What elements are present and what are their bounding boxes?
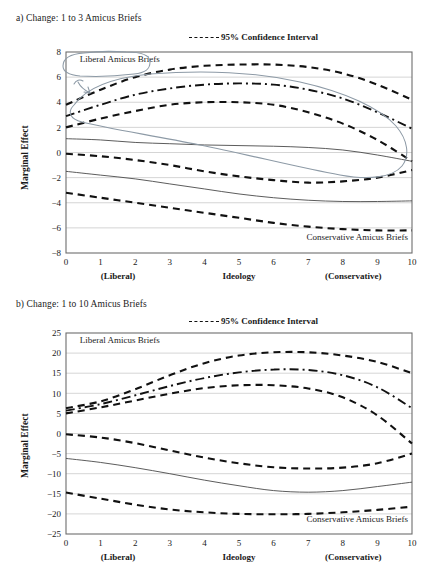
svg-text:10: 10: [408, 257, 418, 267]
svg-text:2: 2: [133, 257, 138, 267]
svg-text:−15: −15: [47, 489, 62, 499]
svg-text:−25: −25: [47, 529, 62, 539]
svg-text:7: 7: [306, 538, 311, 548]
svg-text:5: 5: [57, 409, 62, 419]
svg-text:−6: −6: [51, 223, 61, 233]
svg-text:−10: −10: [47, 469, 62, 479]
svg-text:−2: −2: [51, 173, 61, 183]
svg-text:20: 20: [52, 348, 62, 358]
svg-text:Ideology: Ideology: [222, 552, 256, 562]
panel-a-plot: −8−6−4−202468012345678910(Liberal)Ideolo…: [0, 0, 437, 290]
series-curve: [66, 83, 412, 128]
svg-text:0: 0: [64, 257, 69, 267]
svg-text:−8: −8: [51, 248, 61, 258]
panel-b-plot: −25−20−15−10−50510152025012345678910(Lib…: [0, 290, 437, 579]
svg-text:4: 4: [202, 257, 207, 267]
svg-text:4: 4: [202, 538, 207, 548]
svg-text:Liberal Amicus Briefs: Liberal Amicus Briefs: [80, 335, 160, 345]
svg-text:Conservative Amicus Briefs: Conservative Amicus Briefs: [307, 232, 409, 242]
svg-text:Ideology: Ideology: [222, 271, 256, 281]
series-curve: [66, 458, 412, 492]
svg-text:9: 9: [375, 257, 380, 267]
svg-text:10: 10: [52, 389, 62, 399]
svg-text:8: 8: [341, 538, 346, 548]
panel-a: a) Change: 1 to 3 Amicus Briefs 95% Conf…: [0, 0, 437, 290]
svg-text:6: 6: [271, 257, 276, 267]
svg-text:Liberal Amicus Briefs: Liberal Amicus Briefs: [80, 54, 160, 64]
series-curve: [66, 434, 412, 468]
svg-text:25: 25: [52, 328, 62, 338]
svg-text:1: 1: [98, 538, 103, 548]
svg-text:9: 9: [375, 538, 380, 548]
svg-text:(Conservative): (Conservative): [325, 271, 381, 281]
svg-text:(Liberal): (Liberal): [101, 271, 136, 281]
svg-text:0: 0: [64, 538, 69, 548]
svg-text:(Conservative): (Conservative): [325, 552, 381, 562]
svg-text:7: 7: [306, 257, 311, 267]
svg-text:10: 10: [408, 538, 418, 548]
series-curve: [66, 193, 412, 231]
panel-b: b) Change: 1 to 10 Amicus Briefs 95% Con…: [0, 290, 437, 579]
svg-text:4: 4: [57, 97, 62, 107]
svg-text:8: 8: [341, 257, 346, 267]
svg-text:2: 2: [57, 123, 62, 133]
svg-text:3: 3: [168, 257, 173, 267]
svg-text:3: 3: [168, 538, 173, 548]
svg-text:5: 5: [237, 538, 242, 548]
svg-text:1: 1: [98, 257, 103, 267]
svg-text:−4: −4: [51, 198, 61, 208]
svg-text:Conservative Amicus Briefs: Conservative Amicus Briefs: [307, 514, 409, 524]
svg-text:2: 2: [133, 538, 138, 548]
svg-text:0: 0: [57, 148, 62, 158]
svg-text:5: 5: [237, 257, 242, 267]
series-curve: [66, 385, 412, 444]
series-curve: [66, 64, 412, 104]
svg-text:0: 0: [57, 429, 62, 439]
series-curve: [66, 154, 412, 183]
svg-text:6: 6: [271, 538, 276, 548]
series-curve: [66, 493, 412, 515]
svg-text:(Liberal): (Liberal): [101, 552, 136, 562]
svg-text:−20: −20: [47, 509, 62, 519]
svg-text:8: 8: [57, 47, 62, 57]
svg-text:6: 6: [57, 72, 62, 82]
svg-text:15: 15: [52, 368, 62, 378]
svg-text:−5: −5: [51, 449, 61, 459]
